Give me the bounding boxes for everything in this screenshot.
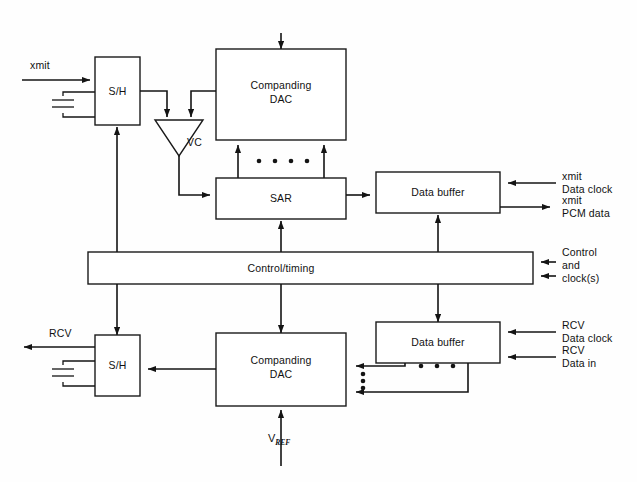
label-rcv-data-clock-line1: RCV — [562, 319, 585, 331]
label-data-buffer-rcv: Data buffer — [411, 336, 465, 348]
bus-dot-3 — [289, 159, 294, 164]
label-comparator-vc: VC — [187, 136, 202, 148]
bus-dot-4 — [305, 159, 310, 164]
label-control-line1: Control — [562, 246, 597, 258]
label-xmit-pcm-data-line1: xmit — [562, 194, 582, 206]
label-control-line2: and — [562, 259, 580, 271]
label-control-timing: Control/timing — [248, 262, 315, 274]
label-sar: SAR — [270, 192, 292, 204]
label-rcv-data-in-line2: Data in — [562, 357, 596, 369]
label-companding-dac-rcv-line2: DAC — [270, 368, 293, 380]
label-companding-dac-rcv-line1: Companding — [250, 354, 311, 366]
label-companding-dac-xmit-line1: Companding — [250, 79, 311, 91]
rcv-bus-dot-h1 — [419, 364, 424, 369]
rcv-bus-dot-v3 — [361, 386, 366, 391]
label-sh-rcv: S/H — [109, 359, 127, 371]
label-control-line3: clock(s) — [562, 272, 599, 284]
rcv-bus-dot-v1 — [361, 372, 366, 377]
label-rcv-data-clock-line2: Data clock — [562, 332, 613, 344]
rcv-bus-dot-h3 — [451, 364, 456, 369]
label-xmit-input: xmit — [30, 59, 50, 71]
label-sh-xmit: S/H — [109, 85, 127, 97]
label-rcv-data-in-line1: RCV — [562, 344, 585, 356]
bus-dot-1 — [257, 159, 262, 164]
label-xmit-data-clock-line1: xmit — [562, 170, 582, 182]
label-companding-dac-xmit-line2: DAC — [270, 93, 293, 105]
label-xmit-pcm-data-line2: PCM data — [562, 207, 610, 219]
label-rcv-output: RCV — [49, 327, 72, 339]
rcv-bus-dot-h2 — [435, 364, 440, 369]
block-diagram-canvas: xmit S/H Companding DAC VC SAR Data buff… — [0, 0, 637, 482]
rcv-bus-dot-v2 — [361, 379, 366, 384]
pcm-codec-schematic: xmit S/H Companding DAC VC SAR Data buff… — [0, 0, 637, 482]
label-data-buffer-xmit: Data buffer — [411, 186, 465, 198]
bus-dot-2 — [273, 159, 278, 164]
